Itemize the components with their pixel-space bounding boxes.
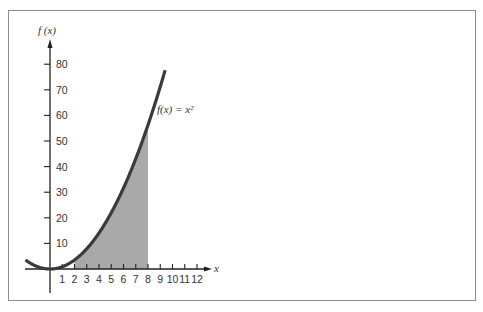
x-tick-label: 3 — [84, 273, 90, 285]
x-tick-label: 2 — [72, 273, 78, 285]
x-tick-label: 10 — [167, 273, 179, 285]
y-tick-label: 70 — [56, 84, 68, 96]
x-axis-arrow-icon — [204, 267, 212, 272]
x-tick-label: 7 — [133, 273, 139, 285]
y-tick-label: 40 — [56, 161, 68, 173]
y-axis-arrow-icon — [48, 39, 53, 48]
x-tick-label: 8 — [145, 273, 151, 285]
x-tick-label: 4 — [96, 273, 102, 285]
y-tick-label: 50 — [56, 135, 68, 147]
shaded-area — [75, 125, 149, 269]
x-tick-label: 12 — [191, 273, 203, 285]
y-tick-label: 80 — [56, 58, 68, 70]
x-tick-label: 6 — [121, 273, 127, 285]
y-axis-label: f (x) — [38, 24, 56, 37]
shaded-region — [75, 125, 149, 269]
y-tick-label: 10 — [56, 237, 68, 249]
chart-svg: 1234567891011121020304050607080 f (x) x … — [0, 0, 483, 312]
x-tick-label: 5 — [108, 273, 114, 285]
y-tick-label: 30 — [56, 186, 68, 198]
x-tick-label: 1 — [59, 273, 65, 285]
x-tick-label: 9 — [157, 273, 163, 285]
curve-label: f(x) = x² — [157, 103, 194, 116]
x-axis-label: x — [213, 262, 219, 274]
y-tick-label: 60 — [56, 109, 68, 121]
x-tick-label: 11 — [179, 273, 190, 285]
y-tick-label: 20 — [56, 212, 68, 224]
